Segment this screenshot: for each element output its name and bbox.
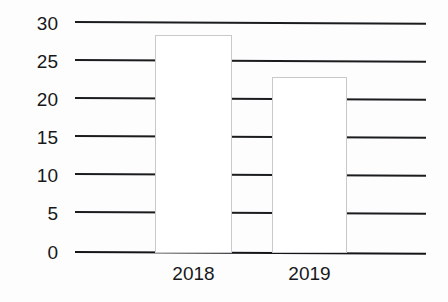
bar-2018 (155, 35, 232, 253)
gridline-20 (75, 97, 426, 101)
x-tick-label-2019: 2019 (272, 264, 347, 283)
bar-chart: 30 25 20 15 10 5 0 2018 2019 (0, 0, 448, 302)
bar-2019 (272, 77, 347, 253)
x-axis-baseline (75, 251, 426, 255)
gridline-10 (75, 173, 426, 177)
plot-area (0, 0, 448, 302)
gridline-30 (75, 21, 426, 25)
gridline-25 (75, 59, 426, 63)
x-tick-label-2018: 2018 (155, 264, 232, 283)
gridline-15 (75, 135, 426, 139)
gridline-5 (75, 211, 426, 215)
